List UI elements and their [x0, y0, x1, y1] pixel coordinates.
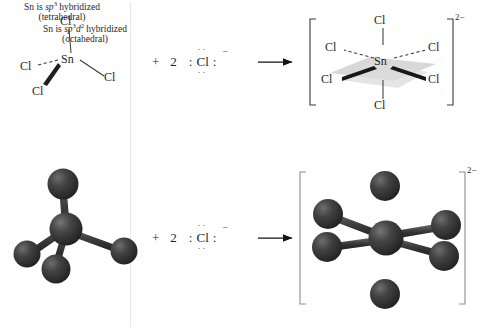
label-cl-downleft: Cl: [321, 73, 332, 85]
atom-ball-axial-bottom: [370, 279, 400, 309]
atom-ball-top: [48, 169, 79, 200]
lone-pair-bottom: ··: [198, 68, 208, 77]
ball-and-stick-octahedral: [300, 171, 465, 309]
chloride-symbol-wrap: ·· Cl ··: [196, 228, 208, 246]
bracket-charge-top: 2−: [455, 13, 465, 22]
atom-ball-eq-lowleft: [312, 232, 342, 262]
atom-ball-right: [111, 238, 138, 265]
label-cl-top: Cl: [60, 15, 71, 27]
atom-ball-eq-upright: [431, 210, 461, 240]
plus-sign: +: [152, 54, 159, 69]
lone-pair-bottom: ··: [198, 244, 208, 253]
ball-and-stick-tetrahedral: [14, 169, 138, 284]
lone-pair-top: ··: [198, 45, 208, 54]
reagent-chloride-top: + 2 : ·· Cl ·· : −: [152, 52, 225, 70]
label-cl-upright: Cl: [428, 41, 439, 53]
atom-ball-eq-upleft: [313, 199, 343, 229]
atom-ball-center: [369, 221, 404, 256]
bracket-left: [310, 19, 316, 105]
label-cl-left: Cl: [20, 60, 31, 72]
lone-pair-left: :: [189, 230, 193, 245]
reagent-chloride-bottom: + 2 : ·· Cl ·· : −: [152, 228, 225, 246]
atom-ball-bottom: [42, 255, 71, 284]
label-cl-right: Cl: [104, 71, 115, 83]
ion-charge: −: [222, 46, 227, 56]
bond-sn-cl-wedge: [43, 63, 61, 86]
lone-pair-top: ··: [198, 221, 208, 230]
atom-ball-axial-top: [370, 171, 400, 201]
bracket-charge-bottom: 2−: [467, 166, 477, 175]
bond-sn-cl-right: [80, 60, 104, 76]
atom-ball-eq-lowright: [429, 241, 459, 271]
label-sn-center: Sn: [374, 55, 387, 67]
bracket-right: [447, 19, 453, 105]
label-cl-axial-bottom: Cl: [374, 99, 385, 111]
atom-ball-center: [50, 213, 83, 246]
bond-sn-cl-dash-upright: [394, 50, 426, 58]
plus-sign: +: [152, 230, 159, 245]
label-cl-downright: Cl: [428, 73, 439, 85]
stoichiometric-count: 2: [170, 230, 177, 245]
ion-charge: −: [222, 222, 227, 232]
bracket-right: [459, 172, 465, 304]
stoichiometric-count: 2: [170, 54, 177, 69]
diagram-svg: [0, 0, 500, 329]
lone-pair-right: :: [213, 54, 217, 69]
label-cl-upleft: Cl: [325, 41, 336, 53]
lone-pair-right: :: [213, 230, 217, 245]
bond-sn-cl-left-dashed: [38, 60, 58, 65]
bond-sn-cl-top: [69, 29, 71, 53]
label-cl-axial-top: Cl: [374, 14, 385, 26]
atom-ball-left: [14, 241, 41, 268]
chloride-symbol-wrap: ·· Cl ··: [196, 52, 208, 70]
bond-sn-cl-dash-upleft: [344, 50, 374, 58]
figure-canvas: Cl Sn Cl Cl Cl Sn is sp3 hybridized (tet…: [0, 0, 500, 329]
bracket-left: [300, 172, 306, 304]
label-cl-bottom: Cl: [32, 85, 43, 97]
label-sn-center: Sn: [61, 53, 74, 65]
lone-pair-left: :: [189, 54, 193, 69]
